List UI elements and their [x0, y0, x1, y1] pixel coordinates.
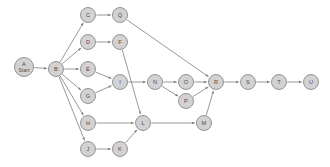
graph-node-b[interactable]: B — [49, 62, 64, 77]
graph-node-e[interactable]: E — [81, 62, 96, 77]
edge-c-to-q — [96, 14, 111, 16]
graph-node-i[interactable]: I — [113, 75, 128, 90]
edge-l-to-m — [151, 122, 195, 124]
graph-node-h[interactable]: H — [81, 116, 96, 131]
workflow-graph-diagram: AStartBCQDFEGINOPRSTUHLMJK — [0, 0, 330, 167]
edge-b-to-j — [59, 77, 85, 141]
edges-layer — [34, 14, 302, 150]
edge-o-to-r — [194, 81, 207, 83]
graph-node-r[interactable]: R — [209, 75, 224, 90]
graph-node-t[interactable]: T — [272, 75, 287, 90]
edge-n-to-o — [163, 81, 177, 83]
graph-node-a[interactable]: AStart — [15, 58, 34, 77]
graph-node-k[interactable]: K — [113, 142, 128, 157]
graph-node-m[interactable]: M — [197, 116, 212, 131]
edge-b-to-g — [62, 74, 81, 90]
edge-e-to-i — [96, 72, 112, 79]
edge-t-to-u — [287, 81, 302, 83]
edge-b-to-d — [62, 47, 81, 63]
graph-node-c[interactable]: C — [81, 8, 96, 23]
edge-k-to-l — [125, 129, 137, 142]
edge-j-to-k — [96, 148, 111, 150]
graph-node-o[interactable]: O — [179, 75, 194, 90]
edge-p-to-r — [193, 87, 209, 97]
graph-node-s[interactable]: S — [241, 75, 256, 90]
graph-node-q[interactable]: Q — [113, 8, 128, 23]
graph-node-d[interactable]: D — [81, 35, 96, 50]
edge-s-to-t — [256, 81, 270, 83]
graph-node-u[interactable]: U — [304, 75, 319, 90]
graph-node-g[interactable]: G — [81, 89, 96, 104]
graph-node-p[interactable]: P — [179, 94, 194, 109]
edge-g-to-i — [96, 85, 113, 92]
edge-h-to-l — [96, 122, 134, 124]
edge-b-to-e — [64, 68, 79, 70]
edge-n-to-p — [162, 86, 179, 96]
graph-node-j[interactable]: J — [81, 142, 96, 157]
graph-node-f[interactable]: F — [113, 35, 128, 50]
edge-m-to-r — [206, 90, 213, 115]
edge-r-to-s — [224, 81, 239, 83]
edge-d-to-f — [96, 41, 111, 43]
edge-a-to-b — [34, 67, 47, 69]
graph-node-n[interactable]: N — [148, 75, 163, 90]
edge-q-to-r — [127, 20, 209, 77]
graph-node-l[interactable]: L — [136, 116, 151, 131]
